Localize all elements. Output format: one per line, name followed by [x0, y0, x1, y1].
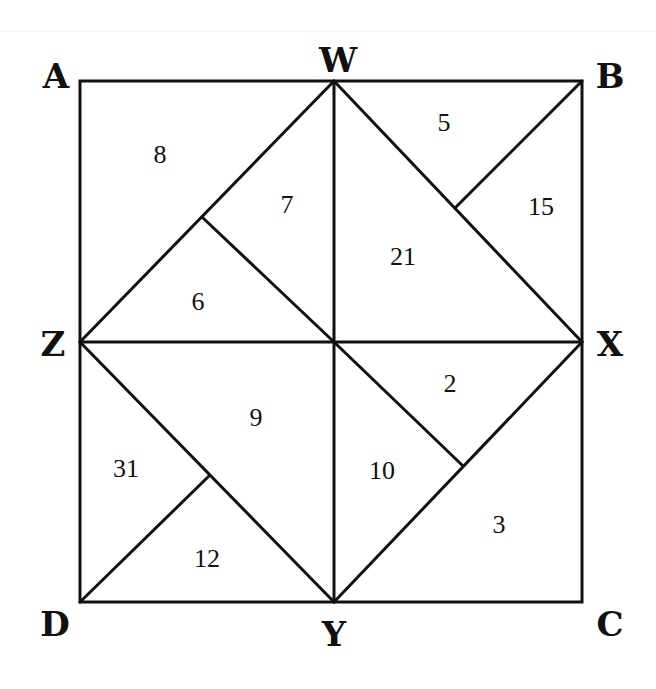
- region-label: 31: [113, 454, 139, 483]
- segment-D-P4: [80, 476, 209, 602]
- region-label: 21: [390, 242, 416, 271]
- region-label: 12: [194, 544, 220, 573]
- vertex-label-X: X: [597, 324, 624, 364]
- vertex-label-C: C: [596, 604, 623, 644]
- region-label: 3: [493, 510, 506, 539]
- tangram-diagram: A W B Z X D Y C 8 7 6 5 15 21 9 2 31 10 …: [0, 0, 656, 689]
- region-label: 8: [154, 140, 167, 169]
- vertex-label-W: W: [318, 40, 358, 80]
- region-label: 9: [250, 403, 263, 432]
- segment-center-P3: [334, 342, 462, 465]
- vertex-label-A: A: [42, 56, 70, 96]
- vertex-label-D: D: [40, 604, 69, 644]
- region-label: 10: [369, 456, 395, 485]
- vertex-label-Z: Z: [41, 324, 66, 364]
- region-label: 7: [281, 190, 294, 219]
- region-label: 6: [192, 287, 205, 316]
- segment-ZW: [80, 81, 334, 342]
- region-label: 15: [528, 192, 554, 221]
- vertex-label-B: B: [596, 56, 625, 96]
- segment-B-P2: [455, 81, 582, 208]
- segment-P1-center: [203, 218, 334, 342]
- region-label: 5: [438, 108, 451, 137]
- region-label: 2: [444, 369, 457, 398]
- vertex-label-Y: Y: [321, 614, 347, 654]
